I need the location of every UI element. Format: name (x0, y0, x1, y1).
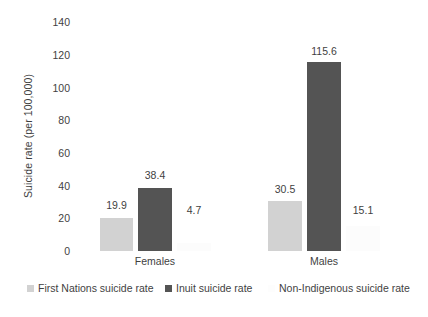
bar-label-females-first-nations: 19.9 (90, 200, 143, 211)
bar-males-non-indigenous (346, 226, 380, 251)
legend-label-first-nations: First Nations suicide rate (38, 283, 154, 294)
legend-item-first-nations[interactable]: First Nations suicide rate (27, 283, 154, 294)
chart-legend: First Nations suicide rate Inuit suicide… (0, 283, 428, 299)
y-tick-20: 20 (30, 213, 70, 224)
legend-swatch-icon-first-nations (27, 285, 34, 292)
legend-swatch-icon-non-indigenous (268, 285, 275, 292)
y-tick-40: 40 (30, 181, 70, 192)
legend-item-inuit[interactable]: Inuit suicide rate (165, 283, 252, 294)
bar-label-females-non-indigenous: 4.7 (167, 205, 221, 216)
y-tick-60: 60 (30, 148, 70, 159)
bar-label-males-inuit: 115.6 (294, 46, 354, 57)
y-tick-0: 0 (30, 246, 70, 257)
bar-chart: Suicide rate (per 100,000) 140 120 100 8… (0, 0, 428, 317)
group-label-males: Males (297, 256, 351, 267)
group-label-females: Females (128, 256, 182, 267)
bar-label-females-inuit: 38.4 (128, 170, 182, 181)
y-tick-100: 100 (30, 83, 70, 94)
y-tick-140: 140 (30, 17, 70, 28)
bar-females-inuit (138, 188, 172, 251)
legend-item-non-indigenous[interactable]: Non-Indigenous suicide rate (268, 283, 410, 294)
legend-swatch-icon-inuit (165, 285, 172, 292)
y-tick-120: 120 (30, 50, 70, 61)
bar-label-males-non-indigenous: 15.1 (336, 205, 390, 216)
y-axis-tick-labels: 140 120 100 80 60 40 20 0 (30, 0, 70, 317)
bar-males-first-nations (268, 201, 302, 251)
bar-label-males-first-nations: 30.5 (258, 184, 312, 195)
legend-label-non-indigenous: Non-Indigenous suicide rate (279, 283, 410, 294)
bar-females-first-nations (100, 218, 133, 251)
legend-label-inuit: Inuit suicide rate (176, 283, 252, 294)
plot-area: 19.9 38.4 4.7 Females 30.5 115.6 15.1 Ma… (76, 0, 428, 317)
bar-males-inuit (307, 62, 341, 251)
bar-females-non-indigenous (177, 243, 211, 251)
y-tick-80: 80 (30, 115, 70, 126)
